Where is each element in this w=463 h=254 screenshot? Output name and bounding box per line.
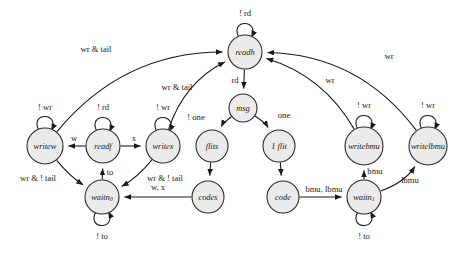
node-code[interactable]: code — [267, 181, 299, 213]
edge-label-writebmu-readh: wr — [325, 75, 334, 85]
node-label-codes: codes — [198, 192, 217, 201]
node-label-readf: readf — [94, 141, 113, 150]
node-label-writelbmu: writelbmu — [411, 141, 445, 150]
self-loop-label-waitn1: ! to — [358, 231, 370, 241]
edge-msg-to-oneflit — [255, 116, 268, 128]
edge-msg-to-flits — [221, 117, 231, 127]
diagram-svg: readhmsgflits1 flitwritewreadfwritexwrit… — [0, 0, 463, 254]
self-loop-label-writew: ! wr — [38, 102, 52, 112]
self-loop-label-readf: ! rd — [97, 102, 110, 112]
node-flits[interactable]: flits — [196, 130, 228, 162]
edge-label-msg-flits: ! one — [187, 112, 205, 122]
edge-label-code-waitn1: bmu, lbmu — [305, 184, 343, 194]
edge-label-waitn1-writebmu: bmu — [367, 166, 383, 176]
node-label-flits: flits — [206, 141, 219, 150]
edge-writew-to-waitn0 — [57, 160, 83, 185]
edge-label-writew-readh: wr & tail — [80, 44, 112, 54]
node-oneflit[interactable]: 1 flit — [263, 130, 295, 162]
node-waitn1[interactable]: waitn1 — [347, 180, 381, 214]
node-label-writex: writex — [153, 141, 174, 150]
edge-label-waitn1-writelbmu: lbmu — [401, 175, 419, 185]
node-label-code: code — [275, 192, 291, 201]
edge-label-readf-writex: x — [132, 133, 137, 143]
state-diagram-canvas: readhmsgflits1 flitwritewreadfwritexwrit… — [0, 0, 463, 254]
node-label-readh: readh — [235, 47, 254, 56]
node-label-oneflit: 1 flit — [271, 141, 287, 150]
node-msg[interactable]: msg — [229, 94, 257, 122]
node-readf[interactable]: readf — [86, 129, 120, 163]
node-label-waitn1: waitn1 — [353, 192, 375, 202]
edge-label-writex-readh: wr & tail — [161, 82, 193, 92]
edge-label-codes-waitn0: w, x — [151, 182, 166, 192]
node-writew[interactable]: writew — [27, 128, 63, 164]
self-loop-label-readh: ! rd — [239, 8, 252, 18]
node-label-writew: writew — [34, 141, 57, 150]
edge-label-readf-writew: w — [71, 133, 78, 143]
edge-label-waitn0-readf: to — [107, 167, 114, 177]
node-label-writebmu: writebmu — [348, 141, 380, 150]
self-loop-label-writebmu: ! wr — [357, 100, 371, 110]
edge-readh-to-msg — [244, 70, 245, 89]
self-loop-label-writelbmu: ! wr — [421, 100, 435, 110]
node-label-waitn0: waitn0 — [91, 192, 113, 202]
node-writelbmu[interactable]: writelbmu — [409, 127, 447, 165]
edge-label-msg-oneflit: one — [278, 110, 291, 120]
edge-label-writew-waitn0: wr & ! tail — [20, 173, 57, 183]
node-codes[interactable]: codes — [192, 181, 224, 213]
edge-flits-to-codes — [210, 162, 211, 175]
self-loop-label-waitn0: ! to — [96, 231, 108, 241]
edge-label-readh-msg: rd — [231, 75, 239, 85]
node-writebmu[interactable]: writebmu — [345, 127, 383, 165]
node-label-msg: msg — [236, 103, 250, 112]
edge-oneflit-to-code — [280, 162, 281, 175]
node-writex[interactable]: writex — [146, 129, 180, 163]
node-readh[interactable]: readh — [228, 35, 262, 69]
edge-label-writex-waitn0: wr & ! tail — [147, 173, 184, 183]
node-waitn0[interactable]: waitn0 — [85, 180, 119, 214]
self-loop-label-writex: ! wr — [156, 102, 170, 112]
edge-label-writelbmu-readh: wr — [384, 51, 393, 61]
nodes-layer: readhmsgflits1 flitwritewreadfwritexwrit… — [27, 35, 447, 214]
